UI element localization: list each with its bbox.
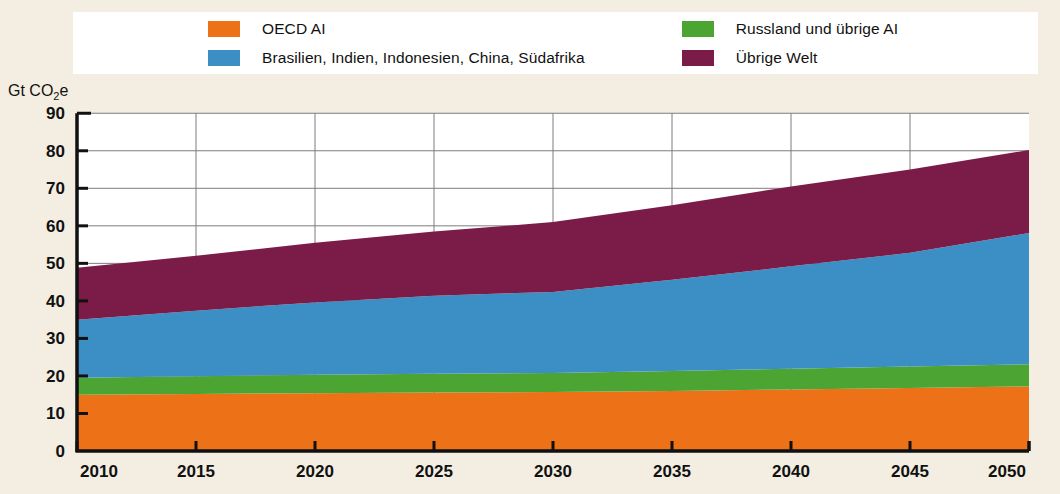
- y-tick-label: 20: [46, 367, 65, 386]
- y-tick-label: 10: [46, 404, 65, 423]
- y-tick-label: 0: [56, 442, 65, 461]
- y-tick-label: 60: [46, 217, 65, 236]
- y-tick-label: 80: [46, 142, 65, 161]
- x-tick-label: 2010: [80, 462, 118, 481]
- x-tick-label: 2030: [534, 462, 572, 481]
- x-tick-label: 2015: [177, 462, 215, 481]
- y-tick-label: 70: [46, 179, 65, 198]
- y-tick-label: 30: [46, 329, 65, 348]
- y-tick-label: 50: [46, 254, 65, 273]
- x-tick-label: 2035: [653, 462, 691, 481]
- y-tick-label: 40: [46, 292, 65, 311]
- chart-area: 0102030405060708090 20102015202020252030…: [0, 0, 1060, 494]
- x-tick-label: 2045: [891, 462, 929, 481]
- x-tick-label: 2050: [988, 462, 1026, 481]
- x-tick-label: 2025: [415, 462, 453, 481]
- x-tick-label: 2020: [296, 462, 334, 481]
- y-tick-label: 90: [46, 104, 65, 123]
- stacked-area-chart: 0102030405060708090 20102015202020252030…: [0, 0, 1060, 494]
- x-tick-label: 2040: [772, 462, 810, 481]
